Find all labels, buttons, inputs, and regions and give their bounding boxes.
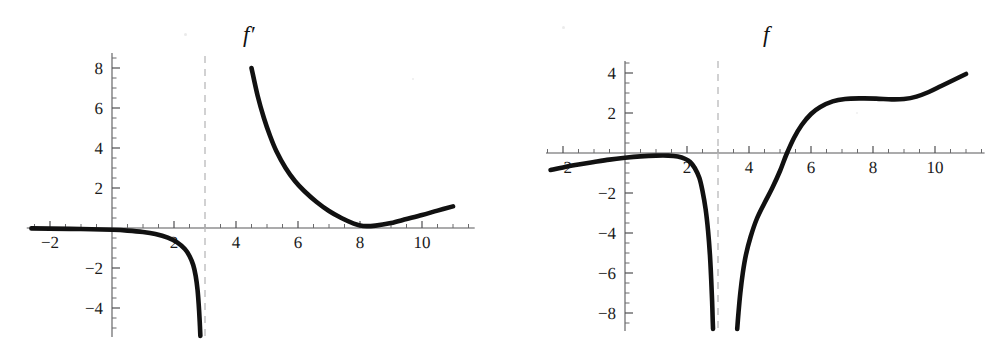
y-tick-label: −6 xyxy=(598,264,616,283)
two-panel-function-figure: −22468108642−2−4 f′ −224681042−2−4−6−8 f xyxy=(0,0,1007,363)
y-tick-label: −2 xyxy=(598,184,616,203)
plot-title-f-prime: f′ xyxy=(243,22,254,48)
function-curve xyxy=(252,68,454,226)
y-tick-label: 4 xyxy=(608,64,617,83)
plot-panel-f: −224681042−2−4−6−8 f xyxy=(503,0,1007,363)
function-curve xyxy=(737,74,966,329)
scan-speck-3 xyxy=(412,78,414,80)
x-tick-label: 10 xyxy=(927,158,944,177)
x-tick-label: 4 xyxy=(745,158,754,177)
x-tick-label: 8 xyxy=(356,233,365,252)
x-tick-label: 6 xyxy=(807,158,816,177)
scan-speck-1 xyxy=(184,33,187,36)
scan-speck-2 xyxy=(562,26,565,29)
x-tick-label: 4 xyxy=(232,233,241,252)
function-curve xyxy=(551,155,713,329)
y-tick-label: 6 xyxy=(95,99,104,118)
y-tick-label: −2 xyxy=(85,259,103,278)
plot-svg-f-prime: −22468108642−2−4 xyxy=(0,0,503,363)
y-tick-label: −8 xyxy=(598,304,616,323)
x-tick-label: −2 xyxy=(41,233,59,252)
y-tick-label: 2 xyxy=(608,104,617,123)
plot-panel-f-prime: −22468108642−2−4 f′ xyxy=(0,0,503,363)
y-tick-label: 8 xyxy=(95,59,104,78)
scan-speck-4 xyxy=(856,112,858,114)
y-tick-label: 2 xyxy=(95,179,104,198)
x-tick-label: 10 xyxy=(414,233,431,252)
y-tick-label: 4 xyxy=(95,139,104,158)
x-tick-label: 6 xyxy=(294,233,303,252)
plot-svg-f: −224681042−2−4−6−8 xyxy=(503,0,1007,363)
y-tick-label: −4 xyxy=(85,299,104,318)
x-tick-label: 8 xyxy=(869,158,878,177)
plot-title-f: f xyxy=(763,22,769,48)
y-tick-label: −4 xyxy=(598,224,617,243)
